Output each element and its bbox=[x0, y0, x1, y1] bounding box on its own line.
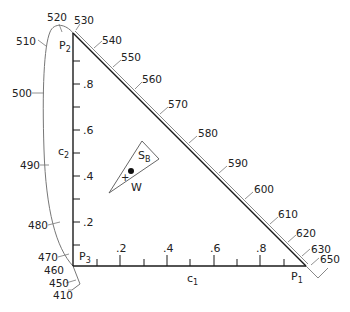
vertex-p1-label: P1 bbox=[291, 270, 303, 285]
x-ticks bbox=[97, 255, 284, 266]
wavelength-label: 600 bbox=[254, 183, 274, 195]
x-tick-label: .4 bbox=[163, 242, 174, 255]
y-tick-label: .2 bbox=[83, 216, 94, 229]
x-tick-label: .6 bbox=[210, 242, 221, 255]
wavelength-label: 620 bbox=[296, 227, 316, 239]
wavelength-label: 500 bbox=[12, 87, 32, 99]
spectral-locus-hypotenuse bbox=[75, 31, 308, 264]
vertex-p3-label: P3 bbox=[79, 250, 91, 265]
wavelength-label: 590 bbox=[228, 157, 248, 169]
spectral-locus-tail bbox=[72, 266, 80, 290]
x-axis-label: c1 bbox=[187, 272, 198, 287]
x-tick-label: .8 bbox=[256, 242, 267, 255]
wavelength-label: 410 bbox=[53, 289, 73, 301]
region-sb-label: SB bbox=[138, 149, 150, 164]
y-tick-label: .8 bbox=[83, 78, 94, 91]
wavelength-label: 460 bbox=[44, 264, 64, 276]
white-point-label: W bbox=[131, 181, 142, 194]
wavelength-label: 540 bbox=[102, 34, 122, 46]
y-axis-label: c2 bbox=[58, 145, 69, 160]
wavelength-label: 450 bbox=[49, 277, 69, 289]
wavelength-label: 570 bbox=[168, 98, 188, 110]
chromaticity-diagram: .8 .6 .4 .2 .2 .4 .6 .8 c2 c1 P2 P3 P1 5… bbox=[0, 0, 350, 312]
wavelength-label: 610 bbox=[278, 208, 298, 220]
y-ticks bbox=[73, 61, 80, 245]
hypotenuse-line bbox=[73, 33, 306, 266]
hyp-wavelength-leaders bbox=[76, 24, 319, 265]
x-tick-label: .2 bbox=[116, 242, 127, 255]
wavelength-label: 490 bbox=[20, 159, 40, 171]
wavelength-label: 520 bbox=[47, 11, 67, 23]
wavelength-label: 510 bbox=[16, 35, 36, 47]
spectral-locus-end bbox=[306, 266, 328, 278]
wavelength-label: 480 bbox=[28, 219, 48, 231]
wavelength-label: 560 bbox=[142, 73, 162, 85]
wavelength-label: 580 bbox=[198, 127, 218, 139]
y-tick-label: .4 bbox=[83, 170, 94, 183]
wavelength-label: 530 bbox=[74, 14, 94, 26]
white-point-cross-icon: + bbox=[121, 172, 129, 183]
y-tick-label: .6 bbox=[83, 124, 94, 137]
vertex-p2-label: P2 bbox=[59, 39, 71, 54]
wavelength-label: 470 bbox=[38, 251, 58, 263]
wavelength-label: 650 bbox=[320, 253, 340, 265]
wavelength-label: 550 bbox=[121, 51, 141, 63]
